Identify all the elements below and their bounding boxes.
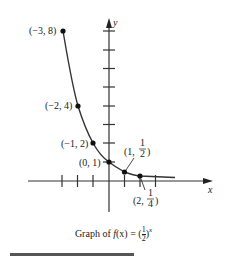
svg-text:1: 1 — [140, 137, 145, 148]
svg-text:): ) — [147, 146, 150, 158]
svg-text:(1,: (1, — [124, 146, 135, 158]
label-point-1-half: (1, 1 2 ) — [124, 137, 150, 159]
label-point-0-1: (0, 1) — [79, 157, 101, 169]
label-point-2-quarter: (2, 1 4 ) — [133, 187, 158, 209]
svg-text:4: 4 — [148, 198, 153, 209]
svg-text:1: 1 — [148, 187, 153, 198]
svg-text:(2,: (2, — [133, 195, 144, 207]
point-2-quarter — [137, 173, 142, 178]
x-axis-label: x — [207, 184, 213, 195]
svg-text:2: 2 — [140, 148, 145, 159]
leader-line-1-half — [126, 158, 134, 170]
chart-caption: Graph of f(x) = (12)x — [0, 226, 227, 243]
y-axis-label: y — [112, 17, 118, 28]
y-axis-arrow-icon — [106, 18, 112, 28]
point-neg2-4 — [75, 103, 80, 108]
label-point-neg1-2: (−1, 2) — [61, 138, 88, 150]
label-point-neg3-8: (−3, 8) — [29, 25, 56, 37]
label-point-neg2-4: (−2, 4) — [45, 100, 72, 112]
divider-bar — [10, 253, 134, 256]
point-neg1-2 — [90, 140, 95, 145]
svg-text:): ) — [155, 195, 158, 207]
point-neg3-8 — [60, 28, 65, 33]
exponential-graph: (−3, 8) (−2, 4) (−1, 2) (0, 1) (1, 1 2 )… — [0, 0, 227, 259]
point-0-1 — [106, 159, 111, 164]
